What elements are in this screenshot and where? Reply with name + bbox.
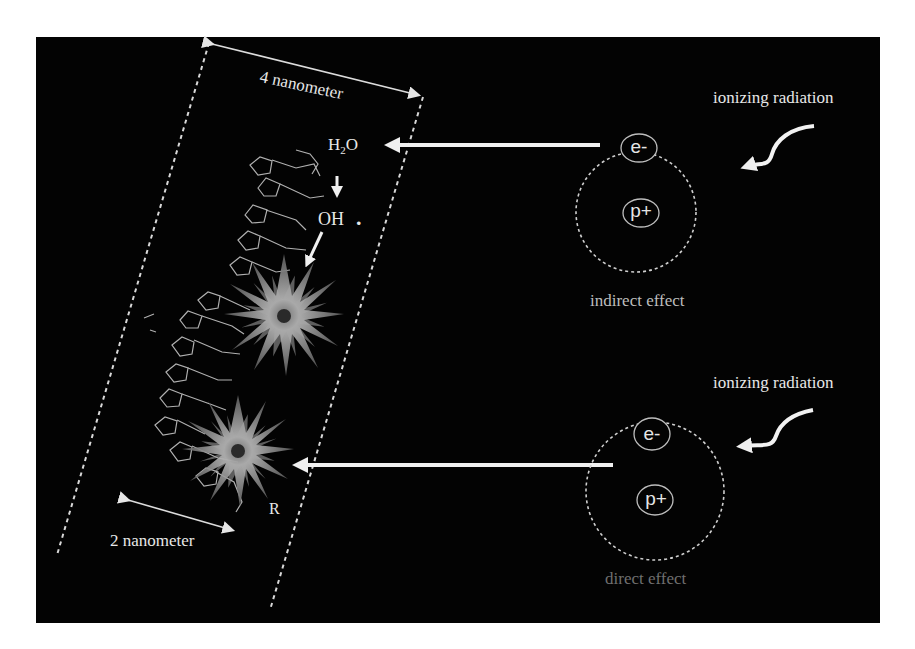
- direct-proton-label: p+: [640, 489, 672, 508]
- hydroxyl-label: OH: [318, 210, 344, 228]
- water-o: O: [346, 135, 358, 154]
- indirect-source-label: ionizing radiation: [713, 89, 833, 106]
- direct-electron-label: e-: [638, 424, 666, 443]
- radical-label: R: [269, 501, 280, 517]
- water-molecule-label: H2O: [328, 136, 358, 156]
- direct-source-label: ionizing radiation: [713, 374, 833, 391]
- helix-measure-label: 2 nanometer: [110, 532, 195, 549]
- direct-effect-label: direct effect: [605, 570, 686, 587]
- water-h: H: [328, 135, 340, 154]
- radical-dot: .: [356, 207, 362, 229]
- indirect-electron-label: e-: [625, 137, 653, 156]
- indirect-proton-label: p+: [625, 201, 657, 220]
- indirect-effect-label: indirect effect: [590, 292, 685, 309]
